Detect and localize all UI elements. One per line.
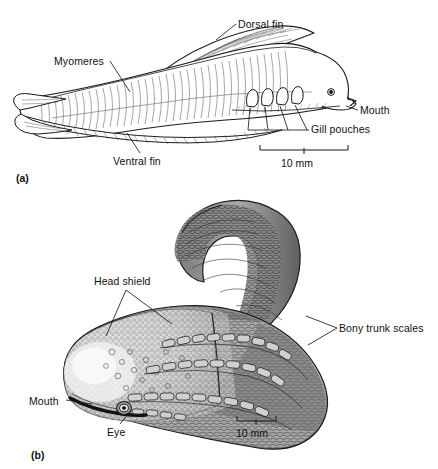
panel-a-artwork xyxy=(14,24,358,154)
label-mouth-panel-a: Mouth xyxy=(360,105,390,116)
scale-caption-panel-a: 10 mm xyxy=(281,157,313,169)
scientific-figure: Dorsal fin Myomeres Mouth Gill pouches V… xyxy=(0,0,438,469)
panel-tag-b: (b) xyxy=(31,449,44,461)
label-head-shield: Head shield xyxy=(94,276,151,287)
label-gill-pouches: Gill pouches xyxy=(311,124,370,135)
label-dorsal-fin: Dorsal fin xyxy=(238,19,283,30)
scale-caption-panel-b: 10 mm xyxy=(236,427,268,439)
label-mouth-panel-b: Mouth xyxy=(29,396,59,407)
panel-tag-a: (a) xyxy=(16,172,29,184)
scale-bar-panel-a xyxy=(260,145,348,154)
label-eye: Eye xyxy=(107,427,125,438)
label-bony-trunk-scales: Bony trunk scales xyxy=(339,323,424,334)
figure-artwork xyxy=(0,0,438,469)
panel-b-artwork xyxy=(58,190,342,458)
eye-marker-panel-b xyxy=(117,402,132,415)
label-myomeres: Myomeres xyxy=(54,56,104,67)
label-ventral-fin: Ventral fin xyxy=(113,156,161,167)
